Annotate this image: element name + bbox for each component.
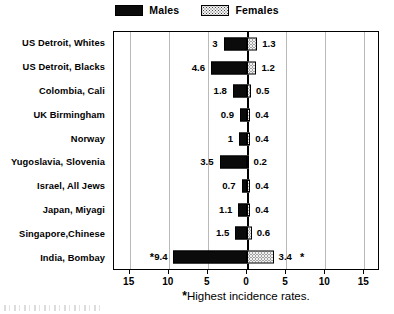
bar-males [224, 37, 247, 50]
axis-tick [168, 270, 169, 274]
chart-legend: Males Females [0, 2, 394, 18]
bar-females [247, 61, 256, 74]
bar-value-label-males: *9.4 [150, 252, 168, 263]
category-axis-labels: US Detroit, Whites US Detroit, Blacks Co… [0, 31, 110, 270]
bar-value-label-females: 0.4 [255, 110, 268, 120]
highest-rate-marker-icon: * [150, 251, 154, 263]
category-label: US Detroit, Whites [0, 31, 110, 55]
chart-row: 1.50.6 [114, 222, 378, 246]
bar-males [238, 203, 247, 216]
bar-females [247, 180, 250, 193]
chart-row: 1.10.4 [114, 198, 378, 222]
category-label: Colombia, Cali [0, 79, 110, 103]
bar-value-label-females: 3.4* [279, 252, 305, 263]
bar-value-label-females: 0.4 [255, 134, 268, 144]
bar-value-label-females: 0.4 [255, 205, 268, 215]
legend-entry-males: Males [115, 4, 179, 16]
chart-row: 3.50.2 [114, 151, 378, 175]
category-label: Singapore,Chinese [0, 222, 110, 246]
category-label: Norway [0, 127, 110, 151]
bar-value-label-males: 1.8 [214, 86, 227, 96]
axis-tick-label: 15 [358, 276, 369, 287]
chart-row: 10.4 [114, 127, 378, 151]
bar-value-label-males: 3.5 [200, 158, 213, 168]
axis-tick-label: 5 [282, 276, 288, 287]
bar-value-label-females: 1.2 [261, 63, 274, 73]
chart-row: 31.3 [114, 32, 378, 56]
highest-rate-marker-icon: * [300, 251, 304, 263]
chart-row: 1.80.5 [114, 79, 378, 103]
category-label: Israel, All Jews [0, 174, 110, 198]
bar-males [220, 156, 247, 169]
bar-males [239, 132, 247, 145]
axis-tick [246, 270, 247, 274]
axis-tick [129, 270, 130, 274]
chart-row: *9.43.4* [114, 245, 378, 269]
chart-footnote: *Highest incidence rates. [113, 290, 379, 302]
legend-swatch-females-icon [201, 5, 229, 16]
chart-bar-rows: 31.34.61.21.80.50.90.410.43.50.20.70.41.… [114, 32, 378, 269]
bar-females [247, 132, 250, 145]
bar-males [211, 61, 247, 74]
category-label: UK Birmingham [0, 103, 110, 127]
axis-tick-label: 15 [123, 276, 134, 287]
bar-value-label-males: 1.1 [219, 205, 232, 215]
bar-females [247, 37, 257, 50]
bar-females [247, 227, 252, 240]
bar-value-label-males: 1.5 [216, 229, 229, 239]
axis-tick-label: 5 [204, 276, 210, 287]
category-label: US Detroit, Blacks [0, 55, 110, 79]
bar-females [247, 251, 274, 264]
bar-females [247, 108, 250, 121]
bar-value-label-males: 0.7 [222, 181, 235, 191]
legend-label-males: Males [149, 4, 179, 16]
value-axis: 15105051015 [113, 270, 379, 292]
bar-males [235, 227, 247, 240]
bar-value-label-females: 0.4 [255, 181, 268, 191]
chart-plot-area: 31.34.61.21.80.50.90.410.43.50.20.70.41.… [113, 31, 379, 270]
legend-label-females: Females [235, 4, 278, 16]
bar-value-label-males: 0.9 [221, 110, 234, 120]
bar-value-label-females: 0.5 [256, 86, 269, 96]
bar-females [247, 156, 249, 169]
chart-row: 0.70.4 [114, 174, 378, 198]
bar-females [247, 203, 250, 216]
bar-value-label-females: 0.6 [257, 229, 270, 239]
category-label: Yugoslavia, Slovenia [0, 151, 110, 175]
axis-tick [324, 270, 325, 274]
category-label: Japan, Miyagi [0, 198, 110, 222]
axis-tick-label: 10 [319, 276, 330, 287]
bar-value-label-females: 0.2 [254, 158, 267, 168]
bar-females [247, 85, 251, 98]
bar-males [240, 108, 247, 121]
legend-entry-females: Females [201, 4, 278, 16]
axis-tick [285, 270, 286, 274]
bar-value-label-males: 3 [212, 39, 217, 49]
chart-row: 0.90.4 [114, 103, 378, 127]
bar-value-label-males: 4.6 [192, 63, 205, 73]
axis-tick-label: 10 [162, 276, 173, 287]
axis-tick [363, 270, 364, 274]
category-label: India, Bombay [0, 246, 110, 270]
chart-row: 4.61.2 [114, 56, 378, 80]
legend-swatch-males-icon [115, 5, 143, 16]
bar-value-label-females: 1.3 [262, 39, 275, 49]
bar-males [173, 251, 247, 264]
bar-value-label-males: 1 [228, 134, 233, 144]
axis-tick-label: 0 [243, 276, 249, 287]
axis-tick [207, 270, 208, 274]
footnote-text: Highest incidence rates. [187, 290, 310, 302]
bar-males [233, 85, 247, 98]
scan-edge-artifact [4, 305, 100, 311]
